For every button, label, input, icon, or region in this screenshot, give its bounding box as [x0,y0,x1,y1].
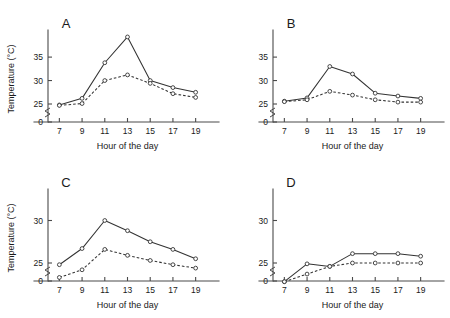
data-point-dashed-11 [328,265,332,269]
data-point-dashed-13 [126,73,130,77]
x-tick-label-11: 11 [100,285,109,295]
y-tick-label-25: 25 [259,258,269,268]
data-point-dashed-17 [171,92,175,96]
data-point-solid-19 [194,90,198,94]
data-point-solid-19 [419,96,423,100]
x-tick-label-9: 9 [305,126,310,136]
data-point-dashed-11 [328,89,332,93]
data-point-dashed-15 [148,81,152,85]
x-axis-title: Hour of the day [322,300,384,310]
data-point-solid-11 [328,65,332,69]
data-point-solid-13 [126,229,130,233]
data-point-dashed-13 [351,261,355,265]
y-tick-label-30: 30 [259,216,269,226]
y-axis-break-icon [45,267,50,276]
data-point-dashed-15 [373,261,377,265]
y-tick-label-25: 25 [34,99,44,109]
y-axis-break-icon [270,108,275,117]
x-tick-label-19: 19 [416,285,426,295]
data-point-dashed-9 [305,272,309,276]
x-tick-label-17: 17 [393,285,403,295]
chart-panel-a: 0253035791113151719Hour of the dayTemper… [0,0,225,159]
panel-letter-a: A [62,16,71,31]
x-axis-title: Hour of the day [322,141,384,151]
data-point-dashed-19 [194,96,198,100]
panel-letter-d: D [286,175,295,190]
data-point-dashed-13 [351,93,355,97]
data-point-dashed-11 [103,79,107,83]
x-tick-label-19: 19 [191,126,201,136]
series-line-dashed [59,75,195,105]
y-axis-break-icon [270,267,275,276]
data-point-solid-9 [80,247,84,251]
chart-svg-d: 02530791113151719Hour of the dayD [225,159,450,318]
y-tick-label-35: 35 [259,52,269,62]
data-point-dashed-9 [80,102,84,106]
x-tick-label-11: 11 [325,126,334,136]
y-tick-label-30: 30 [34,216,44,226]
data-point-dashed-7 [57,276,61,280]
temperature-figure: 0253035791113151719Hour of the dayTemper… [0,0,450,318]
data-point-dashed-11 [103,248,107,252]
series-line-solid [59,37,195,105]
x-tick-label-13: 13 [123,285,133,295]
panel-letter-b: B [287,16,296,31]
panel-letter-c: C [61,175,70,190]
x-tick-label-15: 15 [370,126,380,136]
data-point-solid-17 [396,252,400,256]
x-tick-label-15: 15 [370,285,380,295]
y-tick-label-25: 25 [34,258,44,268]
data-point-solid-19 [419,254,423,258]
x-tick-label-17: 17 [168,126,178,136]
x-tick-label-9: 9 [80,126,85,136]
y-tick-label-30: 30 [34,76,44,86]
x-tick-label-13: 13 [348,126,358,136]
series-line-solid [59,221,195,265]
y-tick-label-0: 0 [263,276,268,286]
x-axis-title: Hour of the day [97,141,159,151]
x-tick-label-19: 19 [416,126,426,136]
y-tick-label-30: 30 [259,76,269,86]
data-point-solid-13 [351,252,355,256]
x-tick-label-9: 9 [80,285,85,295]
data-point-solid-9 [305,262,309,266]
data-point-dashed-17 [171,263,175,267]
data-point-dashed-17 [396,100,400,104]
chart-panel-c: 02530791113151719Hour of the dayTemperat… [0,159,225,318]
data-point-solid-15 [373,252,377,256]
y-axis-break-icon [45,108,50,117]
x-tick-label-13: 13 [123,126,133,136]
data-point-solid-11 [103,219,107,223]
data-point-solid-9 [80,96,84,100]
x-tick-label-7: 7 [57,126,62,136]
y-axis-title: Temperature (°C) [6,203,16,272]
data-point-dashed-19 [194,266,198,270]
data-point-solid-19 [194,257,198,261]
data-point-solid-7 [57,263,61,267]
data-point-dashed-7 [282,100,286,104]
data-point-dashed-17 [396,261,400,265]
chart-panel-d: 02530791113151719Hour of the dayD [225,159,450,318]
data-point-solid-13 [351,72,355,76]
data-point-dashed-7 [57,104,61,108]
data-point-solid-15 [373,91,377,95]
x-tick-label-17: 17 [393,126,403,136]
data-point-dashed-15 [148,259,152,263]
x-tick-label-15: 15 [145,285,155,295]
x-tick-label-9: 9 [305,285,310,295]
data-point-dashed-15 [373,98,377,102]
data-point-dashed-19 [419,261,423,265]
data-point-dashed-13 [126,253,130,257]
x-axis-title: Hour of the day [97,300,159,310]
x-tick-label-11: 11 [100,126,109,136]
data-point-dashed-7 [282,280,286,284]
data-point-dashed-19 [419,100,423,104]
data-point-solid-17 [396,94,400,98]
chart-svg-c: 02530791113151719Hour of the dayTemperat… [0,159,225,318]
data-point-dashed-9 [305,98,309,102]
data-point-solid-11 [103,61,107,65]
data-point-solid-17 [171,248,175,252]
chart-svg-b: 0253035791113151719Hour of the dayB [225,0,450,159]
x-tick-label-7: 7 [57,285,62,295]
y-tick-label-0: 0 [38,276,43,286]
